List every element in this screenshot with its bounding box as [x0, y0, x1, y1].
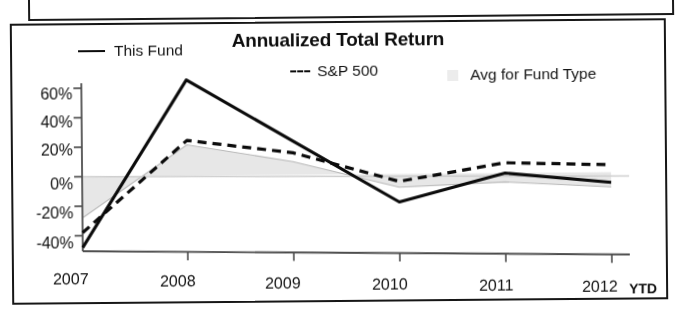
plot-area [10, 18, 668, 305]
sp-500-series-line [82, 137, 612, 233]
scanned-page: Annualized Total Return This Fund S&P 50… [0, 0, 684, 323]
x-axis-line [83, 246, 630, 259]
avg-for-fund-type-area [82, 141, 612, 218]
chart-container: Annualized Total Return This Fund S&P 50… [10, 18, 668, 305]
y-axis-line [81, 83, 82, 251]
